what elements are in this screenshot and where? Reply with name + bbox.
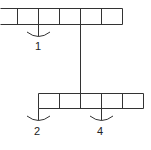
- pointer-label-2: 2: [34, 126, 40, 137]
- pointer-label-1: 1: [35, 41, 41, 52]
- pointer-label-4: 4: [97, 126, 103, 137]
- array-diagram: [0, 0, 151, 150]
